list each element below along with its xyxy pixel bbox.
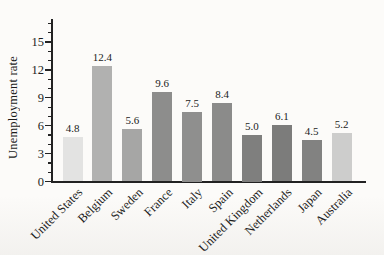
bar [122, 129, 142, 181]
bar [332, 133, 352, 181]
bar [182, 112, 202, 182]
y-tick-label: 6 [0, 120, 44, 132]
bar-value-label: 9.6 [140, 77, 184, 89]
y-tick-major [45, 97, 51, 98]
bar-value-label: 5.2 [320, 118, 364, 130]
bar-value-label: 8.4 [200, 88, 244, 100]
y-tick-minor [48, 162, 52, 163]
bar-value-label: 4.8 [51, 122, 95, 134]
y-axis-spine [51, 19, 53, 183]
y-tick-minor [48, 107, 52, 108]
x-category-label: Italy [180, 186, 205, 211]
y-tick-major [45, 41, 51, 42]
y-tick-minor [48, 116, 52, 117]
y-tick-label: 12 [0, 64, 44, 76]
y-tick-minor [48, 88, 52, 89]
y-tick-minor [48, 172, 52, 173]
y-tick-minor [48, 79, 52, 80]
bar-value-label: 12.4 [80, 51, 124, 63]
unemployment-bar-chart: Unemployment rate 03691215 4.812.45.69.6… [0, 0, 384, 255]
bar-value-label: 6.1 [260, 110, 304, 122]
bar [63, 137, 83, 182]
bar-value-label: 5.6 [110, 114, 154, 126]
y-tick-minor [48, 23, 52, 24]
y-tick-major [45, 69, 51, 70]
x-category-label: France [142, 186, 175, 219]
x-category-label: Sweden [108, 186, 145, 223]
y-tick-label: 0 [0, 176, 44, 188]
bar-value-label: 5.0 [230, 120, 274, 132]
y-tick-label: 3 [0, 148, 44, 160]
y-tick-minor [48, 32, 52, 33]
y-tick-minor [48, 60, 52, 61]
y-tick-label: 15 [0, 36, 44, 48]
y-tick-minor [48, 51, 52, 52]
bar [302, 140, 322, 182]
bar [242, 135, 262, 182]
y-tick-label: 9 [0, 92, 44, 104]
y-tick-minor [48, 134, 52, 135]
y-tick-major [45, 181, 51, 182]
bar [212, 103, 232, 181]
y-tick-major [45, 153, 51, 154]
y-tick-minor [48, 144, 52, 145]
